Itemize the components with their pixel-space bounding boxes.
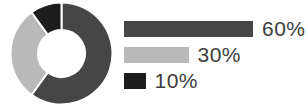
donut-chart — [0, 0, 124, 106]
legend-swatch-bar — [124, 47, 189, 63]
legend-row-2: 30% — [124, 47, 306, 63]
legend-swatch-bar — [124, 21, 253, 37]
legend-row-1: 60% — [124, 21, 306, 37]
legend-label: 30% — [198, 47, 242, 63]
donut-chart-figure: 60%30%10% — [0, 0, 308, 106]
legend-label: 10% — [155, 73, 199, 89]
legend-label: 60% — [262, 21, 306, 37]
chart-legend: 60%30%10% — [124, 21, 306, 89]
legend-swatch-bar — [124, 73, 146, 89]
legend-row-3: 10% — [124, 73, 306, 89]
